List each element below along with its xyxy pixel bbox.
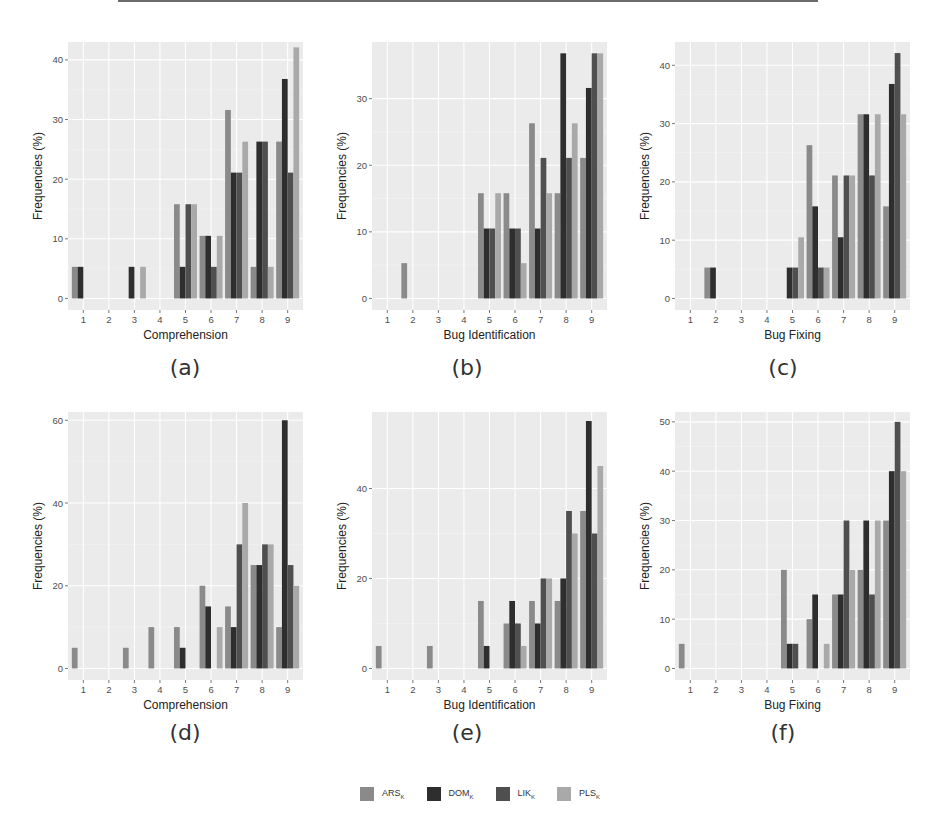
bar-ars-9 [580,511,586,668]
x-tick-label: 8 [259,684,264,695]
bar-pls-7 [849,570,855,669]
x-tick-label: 6 [208,684,213,695]
bar-ars-1 [679,644,685,669]
x-tick-label: 7 [841,684,846,695]
caption-d: (d) [155,720,215,745]
x-tick-label: 3 [436,684,441,695]
bar-pls-8 [572,533,578,668]
bar-lik-5 [793,644,799,669]
x-tick-label: 8 [563,684,568,695]
bar-pls-5 [495,193,501,298]
bar-ars-1 [72,648,78,669]
bar-dom-7 [838,237,844,298]
bar-dom-9 [889,471,895,668]
x-tick-label: 2 [410,314,415,325]
bar-dom-6 [205,236,211,299]
bar-lik-7 [237,544,243,668]
bar-lik-7 [237,173,243,299]
bar-pls-6 [217,627,223,668]
caption-c: (c) [753,355,813,380]
x-tick-label: 8 [259,314,264,325]
chart-panel-f: 01020304050123456789Bug FixingFrequencie… [637,410,917,720]
bar-dom-6 [509,229,515,299]
x-tick-label: 9 [892,684,897,695]
bar-pls-6 [824,644,830,669]
bar-dom-8 [256,565,262,668]
bar-ars-5 [478,601,484,668]
y-tick-label: 10 [659,614,670,625]
bar-lik-6 [818,268,824,299]
x-tick-label: 3 [132,314,137,325]
bar-pls-8 [268,267,274,299]
y-tick-label: 40 [52,498,63,509]
bar-dom-9 [282,420,288,668]
x-tick-label: 4 [461,684,466,695]
y-tick-label: 40 [52,54,63,65]
legend-swatch-dom [427,787,441,801]
x-tick-label: 4 [157,684,162,695]
bar-dom-2 [710,268,716,299]
x-tick-label: 5 [790,684,795,695]
bar-pls-8 [268,544,274,668]
bar-dom-7 [231,627,237,668]
bar-ars-8 [555,601,561,668]
x-tick-label: 4 [461,314,466,325]
y-tick-label: 40 [659,466,670,477]
bar-lik-6 [515,623,521,668]
y-tick-label: 0 [58,293,63,304]
bar-ars-6 [200,586,206,669]
bar-dom-5 [787,644,793,669]
bar-ars-2 [401,263,407,298]
legend-item-ars: ARSK [360,787,405,801]
y-tick-label: 60 [52,415,63,426]
x-tick-label: 4 [764,684,769,695]
bar-pls-6 [824,268,830,299]
bar-ars-7 [832,175,838,298]
bar-lik-7 [541,578,547,668]
legend-item-pls: PLSK [557,787,600,801]
bar-dom-6 [509,601,515,668]
x-axis-label: Bug Identification [443,698,535,712]
bar-lik-9 [288,173,294,299]
bar-ars-3 [427,646,433,668]
bar-lik-7 [844,521,850,669]
bar-pls-8 [875,114,881,298]
bar-lik-7 [541,158,547,299]
bar-lik-5 [793,268,799,299]
y-axis-label: Frequencies (%) [31,502,45,590]
bar-ars-6 [504,193,510,298]
chart-panel-e: 02040123456789Bug IdentificationFrequenc… [334,410,614,720]
bar-pls-7 [242,142,248,299]
legend-label-dom: DOMK [449,788,474,800]
bar-lik-8 [262,544,268,668]
bar-ars-6 [200,236,206,299]
bar-dom-6 [812,206,818,298]
y-tick-label: 50 [659,416,670,427]
bar-lik-9 [895,53,901,298]
bar-pls-7 [849,175,855,298]
bar-pls-8 [875,521,881,669]
x-tick-label: 2 [106,314,111,325]
x-tick-label: 3 [739,314,744,325]
x-tick-label: 2 [106,684,111,695]
legend-swatch-lik [496,787,510,801]
x-tick-label: 1 [385,684,390,695]
bar-dom-5 [180,648,186,669]
y-tick-label: 20 [356,160,367,171]
x-tick-label: 9 [589,684,594,695]
chart-svg-f: 01020304050123456789Bug FixingFrequencie… [637,410,917,720]
y-tick-label: 0 [58,663,63,674]
bar-ars-4 [148,627,154,668]
bar-ars-5 [781,570,787,669]
bar-ars-6 [504,623,510,668]
bar-pls-5 [191,204,197,298]
caption-b: (b) [437,355,497,380]
legend-item-dom: DOMK [427,787,474,801]
y-tick-label: 40 [659,60,670,71]
x-tick-label: 8 [563,314,568,325]
bar-ars-1 [72,267,78,299]
x-tick-label: 6 [815,314,820,325]
bar-pls-6 [521,263,527,298]
x-axis-label: Bug Identification [443,328,535,342]
bar-dom-1 [78,267,84,299]
